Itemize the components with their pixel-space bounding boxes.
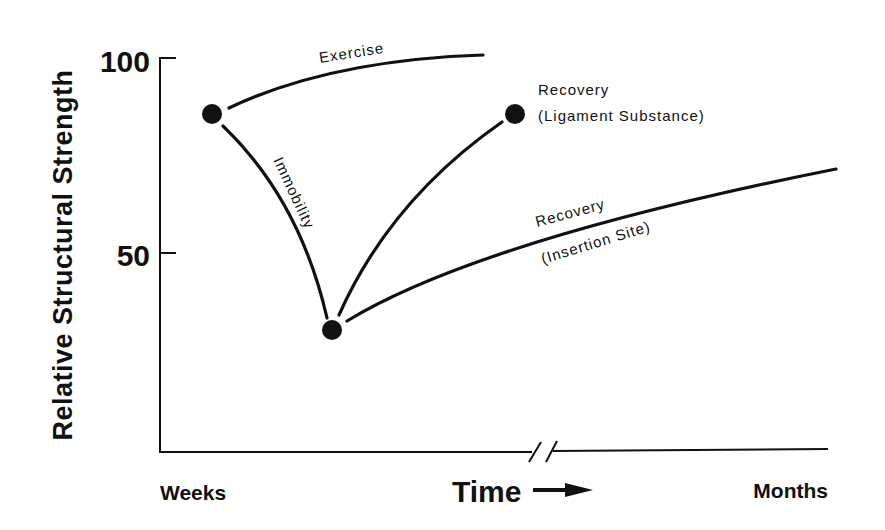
x-label-weeks: Weeks — [160, 481, 226, 504]
strength-chart: Relative Structural Strength 100 50 Exer… — [0, 0, 885, 530]
x-axis-right — [553, 449, 828, 451]
x-label-months: Months — [753, 479, 828, 502]
point-minimum — [322, 320, 342, 340]
label-exercise: Exercise — [318, 39, 385, 66]
label-recovery-ligament: Recovery — [538, 81, 609, 98]
axes — [159, 57, 828, 462]
y-axis-label: Relative Structural Strength — [48, 69, 78, 440]
recovery-ligament-curve — [339, 122, 502, 315]
point-start — [202, 104, 222, 124]
exercise-curve — [229, 55, 483, 108]
label-ligament-substance: (Ligament Substance) — [538, 107, 705, 124]
y-tick-50: 50 — [117, 239, 150, 272]
point-ligament-recovered — [505, 104, 525, 124]
y-tick-100: 100 — [100, 45, 150, 78]
arrow-right-icon — [533, 483, 593, 497]
x-axis-title: Time — [452, 475, 521, 508]
curves — [223, 55, 836, 321]
